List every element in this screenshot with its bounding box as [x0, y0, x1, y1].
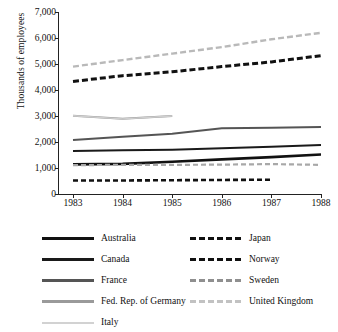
y-tick-mark — [55, 90, 59, 91]
legend-swatch-italy — [42, 322, 94, 324]
series-line-canada — [73, 145, 321, 151]
y-axis-tick-labels: 01,0002,0003,0004,0005,0006,0007,000 — [14, 0, 56, 222]
legend-item-japan[interactable]: Japan — [190, 228, 338, 249]
legend-swatch-australia — [42, 237, 94, 240]
legend-swatch-japan — [190, 237, 242, 240]
legend-item-australia[interactable]: Australia — [42, 228, 192, 249]
y-tick-label: 3,000 — [16, 111, 56, 121]
chart-area: Thousands of employees 01,0002,0003,0004… — [0, 0, 338, 222]
series-line-france — [73, 127, 321, 140]
legend-swatch-fed-rep-of-germany — [42, 300, 94, 302]
legend-item-sweden[interactable]: Sweden — [190, 270, 338, 291]
x-tick-label: 1985 — [152, 198, 192, 208]
y-tick-mark — [55, 168, 59, 169]
legend-label: Sweden — [249, 275, 279, 286]
y-tick-label: 5,000 — [16, 59, 56, 69]
x-tick-label: 1986 — [202, 198, 242, 208]
x-tick-label: 1987 — [251, 198, 291, 208]
y-tick-label: 2,000 — [16, 137, 56, 147]
y-tick-mark — [55, 194, 59, 195]
y-tick-label: 1,000 — [16, 163, 56, 173]
y-tick-mark — [55, 12, 59, 13]
legend-label: Japan — [249, 233, 271, 244]
legend-swatch-norway — [190, 258, 242, 261]
legend-label: Norway — [249, 254, 280, 265]
legend-swatch-sweden — [190, 279, 242, 281]
legend-item-fed-rep-of-germany[interactable]: Fed. Rep. of Germany — [42, 291, 192, 312]
series-line-japan — [73, 56, 321, 82]
legend-label: Italy — [101, 317, 118, 328]
x-tick-label: 1988 — [301, 198, 338, 208]
legend-item-norway[interactable]: Norway — [190, 249, 338, 270]
legend-label: France — [101, 275, 127, 286]
y-tick-mark — [55, 116, 59, 117]
y-tick-label: 6,000 — [16, 33, 56, 43]
chart-figure: Thousands of employees 01,0002,0003,0004… — [0, 0, 338, 332]
legend-item-italy[interactable]: Italy — [42, 312, 192, 332]
chart-legend: AustraliaCanadaFranceFed. Rep. of German… — [0, 228, 338, 332]
y-tick-label: 0 — [16, 189, 56, 199]
legend-swatch-united-kingdom — [190, 300, 242, 302]
y-tick-mark — [55, 64, 59, 65]
legend-item-united-kingdom[interactable]: United Kingdom — [190, 291, 338, 312]
legend-swatch-canada — [42, 258, 94, 261]
series-line-australia — [73, 154, 321, 164]
y-tick-mark — [55, 38, 59, 39]
legend-item-canada[interactable]: Canada — [42, 249, 192, 270]
series-lines — [59, 12, 321, 194]
y-tick-mark — [55, 142, 59, 143]
plot-region: 198319841985198619871988 — [58, 12, 321, 195]
x-tick-label: 1984 — [103, 198, 143, 208]
legend-label: Fed. Rep. of Germany — [101, 296, 186, 307]
legend-label: Australia — [101, 233, 136, 244]
series-line-norway — [73, 180, 271, 181]
y-tick-label: 7,000 — [16, 7, 56, 17]
y-tick-label: 4,000 — [16, 85, 56, 95]
legend-label: Canada — [101, 254, 130, 265]
legend-item-france[interactable]: France — [42, 270, 192, 291]
legend-label: United Kingdom — [249, 296, 313, 307]
x-tick-label: 1983 — [53, 198, 93, 208]
legend-column-right: JapanNorwaySwedenUnited Kingdom — [190, 228, 338, 312]
series-line-italy — [73, 116, 172, 119]
legend-column-left: AustraliaCanadaFranceFed. Rep. of German… — [42, 228, 192, 332]
legend-swatch-france — [42, 279, 94, 282]
